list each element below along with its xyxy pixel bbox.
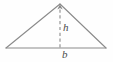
triangle-diagram-figure: h b <box>0 0 113 62</box>
base-label: b <box>62 49 68 60</box>
height-label: h <box>63 22 69 33</box>
triangle-left-side <box>6 4 60 48</box>
triangle-diagram-canvas <box>0 0 113 62</box>
